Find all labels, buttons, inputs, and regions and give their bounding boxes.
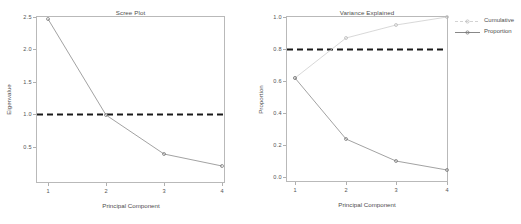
scree-plot-panel: Scree Plot 2.5 2.0 1.5 1.0 0.5 1 2 3 4 P…	[0, 0, 261, 224]
proportion-line	[295, 78, 447, 170]
legend-cumulative-label: Cumulative	[484, 17, 514, 23]
variance-explained-panel: Variance Explained 1.0 0.8 0.6 0.4 0.2 0…	[258, 0, 521, 224]
figure-canvas: Scree Plot 2.5 2.0 1.5 1.0 0.5 1 2 3 4 P…	[0, 0, 521, 224]
eigenvalue-line	[48, 19, 222, 166]
scree-plot-series	[0, 0, 261, 224]
legend-item-proportion[interactable]: Proportion	[454, 27, 520, 38]
legend-item-cumulative[interactable]: Cumulative	[454, 16, 520, 27]
variance-legend: Cumulative Proportion	[454, 16, 520, 38]
legend-proportion-swatch	[454, 27, 482, 38]
legend-proportion-label: Proportion	[484, 28, 512, 34]
legend-cumulative-swatch	[454, 16, 482, 27]
cumulative-line	[295, 17, 447, 78]
